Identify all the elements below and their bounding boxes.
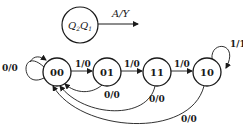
state-10: 10 — [193, 58, 221, 86]
transition-10-00-label: 0/0 — [181, 114, 197, 124]
transition-00-01: 1/0 — [71, 59, 92, 71]
transition-00-00-label: 0/0 — [2, 63, 18, 73]
transition-01-00: 0/0 — [65, 84, 120, 100]
state-11: 11 — [143, 58, 171, 86]
legend: Q2Q1 A/Y — [62, 7, 138, 43]
transition-01-11-label: 1/0 — [124, 59, 140, 69]
state-00: 00 — [43, 58, 71, 86]
transition-10-00: 0/0 — [53, 86, 204, 124]
transition-11-10: 1/0 — [171, 59, 192, 71]
legend-transition-label: A/Y — [111, 8, 131, 19]
transition-10-10-label: 1/1 — [230, 39, 243, 49]
state-01: 01 — [93, 58, 121, 86]
transition-11-00-label: 0/0 — [149, 94, 165, 104]
legend-state-label: Q2Q1 — [68, 20, 92, 32]
transition-10-10: 1/1 — [212, 39, 243, 68]
transition-01-00-label: 0/0 — [104, 90, 120, 100]
state-10-label: 10 — [200, 67, 214, 78]
state-01-label: 01 — [100, 67, 114, 78]
transition-11-10-label: 1/0 — [174, 59, 190, 69]
state-00-label: 00 — [50, 67, 64, 78]
state-11-label: 11 — [150, 67, 164, 78]
transition-01-11: 1/0 — [121, 59, 142, 71]
transition-00-01-label: 1/0 — [75, 59, 91, 69]
transition-00-00: 0/0 — [2, 57, 46, 80]
state-diagram: Q2Q1 A/Y 00 01 11 10 0/0 1/0 1/0 1/0 — [0, 0, 243, 136]
